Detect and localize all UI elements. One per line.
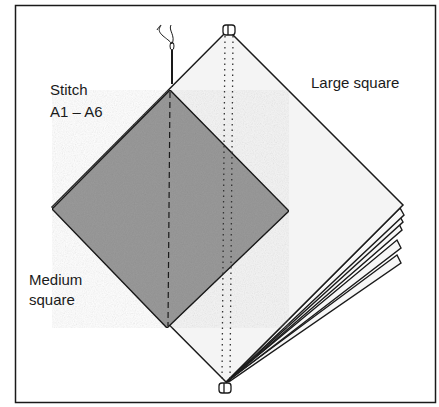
large-square-label: Large square <box>311 74 399 91</box>
medium-square-label: Medium <box>29 271 82 288</box>
medium-square-label-2: square <box>29 291 75 308</box>
stitch-range-label: A1 – A6 <box>50 103 103 120</box>
stitch-label: Stitch <box>50 81 88 98</box>
quilt-stitching-diagram: Stitch A1 – A6 Large square Medium squar… <box>0 0 439 407</box>
